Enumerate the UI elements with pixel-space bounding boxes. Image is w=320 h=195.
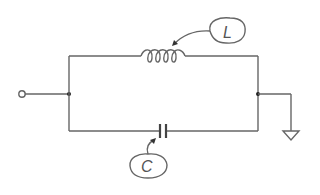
capacitor-label-callout: C — [130, 138, 167, 178]
input-terminal — [19, 91, 25, 97]
ground-symbol — [258, 94, 299, 140]
inductor-label-callout: L — [172, 18, 245, 46]
inductor-label: L — [223, 24, 232, 41]
inductor-symbol — [141, 50, 185, 62]
ground-icon — [283, 131, 299, 140]
capacitor-symbol — [160, 124, 166, 138]
capacitor-label: C — [141, 158, 153, 175]
circuit-diagram: L C — [0, 0, 320, 195]
arrow-head-icon — [150, 138, 156, 144]
